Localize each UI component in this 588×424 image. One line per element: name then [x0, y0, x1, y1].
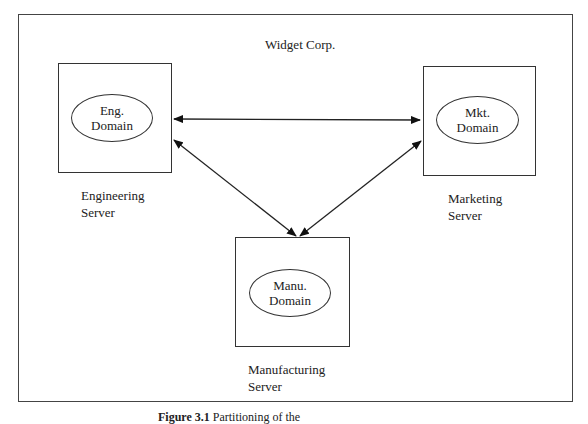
connection-arrows — [0, 0, 588, 424]
figure-caption-text: Partitioning of the — [210, 410, 300, 424]
arrow-eng-mkt — [174, 119, 420, 120]
arrow-eng-manu — [174, 140, 296, 236]
figure-caption-label: Figure 3.1 — [158, 410, 210, 424]
arrow-mkt-manu — [300, 141, 421, 236]
figure-caption: Figure 3.1 Partitioning of the — [158, 410, 300, 424]
